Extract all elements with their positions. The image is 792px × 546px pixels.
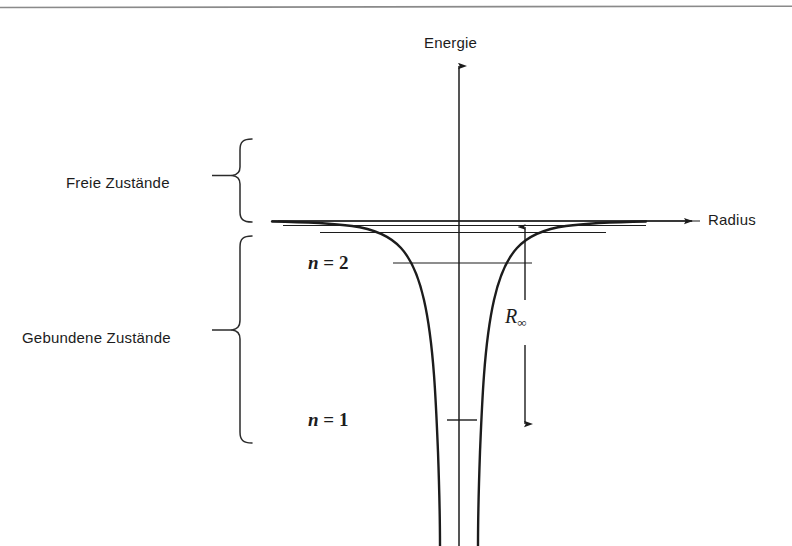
brace-freie-zustaende [232,139,252,222]
energy-axis-label: Energie [424,34,477,51]
coulomb-potential-curve-left [272,222,440,546]
energy-radius-diagram [0,0,792,546]
level-label-n-2-symbol: n [308,252,319,273]
rydberg-constant-symbol: R [505,305,517,327]
level-label-n-1-equals: = [319,409,339,430]
brace-label-gebundene-zustaende: Gebundene Zustände [22,329,171,346]
rydberg-constant-label: R∞ [505,305,527,331]
level-label-n-1-value: 1 [339,409,349,430]
radius-axis-label: Radius [708,211,756,228]
brace-gebundene-zustaende [232,236,252,443]
level-label-n-2: n = 2 [308,252,348,274]
level-label-n-2-value: 2 [339,252,349,273]
coulomb-potential-curve-right [478,222,646,546]
page-top-rule [0,6,792,7]
figure-root: Energie Radius Freie Zustände Gebundene … [0,0,792,546]
level-label-n-2-equals: = [319,252,339,273]
level-label-n-1-symbol: n [308,409,319,430]
level-label-n-1: n = 1 [308,409,348,431]
brace-label-freie-zustaende: Freie Zustände [66,174,170,191]
rydberg-constant-subscript: ∞ [517,315,526,330]
